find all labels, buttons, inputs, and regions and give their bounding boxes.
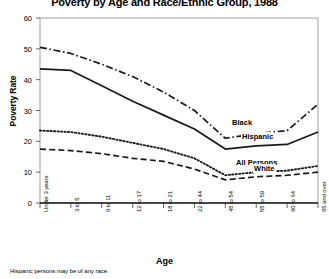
x-axis-label: Age bbox=[0, 256, 329, 266]
plot-area bbox=[0, 0, 329, 279]
series-label-hispanic: Hispanic bbox=[241, 132, 274, 141]
series-line-all-persons bbox=[40, 131, 318, 176]
chart-figure: Poverty by Age and Race/Ethnic Group, 19… bbox=[0, 0, 329, 279]
series-line-black bbox=[40, 47, 318, 138]
chart-footnote: Hispanic persons may be of any race. bbox=[10, 268, 109, 274]
series-line-hispanic bbox=[40, 69, 318, 149]
series-label-white: White bbox=[253, 164, 275, 173]
series-label-black: Black bbox=[231, 118, 253, 127]
